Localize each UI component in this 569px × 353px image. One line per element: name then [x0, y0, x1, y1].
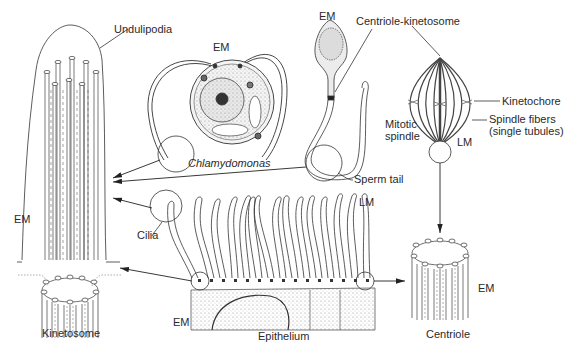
undulipodium-drawing [17, 25, 120, 262]
kinetochore-label: Kinetochore [502, 95, 561, 107]
centriole-drawing [411, 238, 469, 320]
cilia-lm-scale-label: LM [359, 196, 374, 208]
cilia-em-scale-label: EM [173, 316, 190, 328]
spindle-scale-label: LM [457, 136, 472, 148]
sperm-drawing [305, 20, 368, 180]
chlamydomonas-label: Chlamydomonas [188, 157, 271, 169]
centriole-label: Centriole [426, 328, 470, 340]
cilia-label: Cilia [137, 229, 158, 241]
centriole-scale-label: EM [478, 282, 495, 294]
spindle-zoom-circle [429, 141, 451, 163]
undulipodia-label: Undulipodia [114, 23, 172, 35]
sperm-scale-label: EM [319, 10, 336, 22]
mitotic-label-line2: spindle [385, 130, 420, 142]
basal-bodies [198, 279, 369, 282]
spindle-fibers-label-line1: Spindle fibers [489, 113, 556, 125]
spindle-fibers-label-line2: (single tubules) [489, 125, 564, 137]
kinetosome-label: Kinetosome [42, 327, 100, 339]
undulipodia-scale-label: EM [14, 213, 31, 225]
cilia-zoom-circle [150, 190, 182, 222]
diagram-drawing [0, 0, 569, 353]
chlamydomonas-scale-label: EM [213, 41, 230, 53]
epithelium-label: Epithelium [258, 330, 309, 342]
epithelium-drawing [191, 288, 375, 330]
organelle-diagram: Undulipodia EM EM Chlamydomonas EM Centr… [0, 0, 569, 353]
sperm-tail-label: Sperm tail [354, 173, 404, 185]
chlamydomonas-drawing [148, 54, 287, 160]
centriole-kinetosome-label: Centriole-kinetosome [356, 15, 460, 27]
mitotic-label-line1: Mitotic [385, 118, 417, 130]
cilia-drawing [168, 194, 370, 278]
